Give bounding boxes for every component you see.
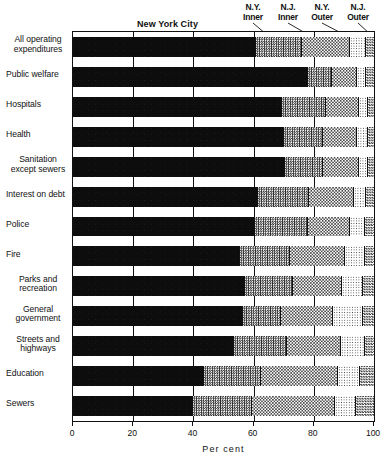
callout-label-nj-outer: N.J. Outer xyxy=(338,3,378,22)
bar-segment xyxy=(363,306,374,326)
bar-row xyxy=(73,336,374,356)
bar-segment xyxy=(73,336,234,356)
category-label: Police xyxy=(6,220,70,230)
bar-segment xyxy=(73,366,204,386)
bar-segment xyxy=(332,67,358,87)
bar-segment xyxy=(73,276,245,296)
bar-segment xyxy=(234,336,287,356)
bar-segment xyxy=(73,396,193,416)
bar-segment xyxy=(73,37,256,57)
category-label: Sanitation except sewers xyxy=(6,155,70,174)
bar-segment xyxy=(360,366,374,386)
bar-row xyxy=(73,37,374,57)
bar-segment xyxy=(293,276,343,296)
category-label: Health xyxy=(6,130,70,140)
x-tick-label: 0 xyxy=(52,428,92,438)
bar-segment xyxy=(357,67,366,87)
bar-segment xyxy=(345,246,365,266)
bar-segment xyxy=(281,306,334,326)
callout-label-ny-outer: N.Y. Outer xyxy=(302,3,342,22)
x-tick-label: 40 xyxy=(172,428,212,438)
x-tick xyxy=(373,422,374,426)
bar-segment xyxy=(308,217,350,237)
bar-row xyxy=(73,217,374,237)
bar-segment xyxy=(359,97,368,117)
bar-row xyxy=(73,246,374,266)
bar-segment xyxy=(73,187,258,207)
bar-segment xyxy=(73,127,284,147)
x-tick xyxy=(253,422,254,426)
x-axis-title: Per cent xyxy=(72,444,375,454)
bar-segment xyxy=(335,396,356,416)
bar-segment xyxy=(243,306,281,326)
bar-segment xyxy=(258,187,309,207)
bar-segment xyxy=(363,276,374,296)
bar-segment xyxy=(326,97,359,117)
x-tick xyxy=(132,422,133,426)
bar-segment xyxy=(357,127,368,147)
plot-area xyxy=(72,31,375,422)
bar-row xyxy=(73,396,374,416)
x-tick xyxy=(313,422,314,426)
category-label: Fire xyxy=(6,250,70,260)
bar-row xyxy=(73,366,374,386)
bar-segment xyxy=(323,157,359,177)
bar-segment xyxy=(287,336,341,356)
category-label: Interest on debt xyxy=(6,190,70,200)
bar-segment xyxy=(366,67,374,87)
callout-label-ny-inner: N.Y. Inner xyxy=(233,3,273,22)
x-tick xyxy=(192,422,193,426)
bar-segment xyxy=(354,187,366,207)
bar-row xyxy=(73,67,374,87)
bar-segment xyxy=(240,246,290,266)
bar-segment xyxy=(365,246,374,266)
bar-segment xyxy=(368,157,374,177)
bar-segment xyxy=(73,306,243,326)
bar-segment xyxy=(252,396,335,416)
bar-segment xyxy=(338,366,361,386)
bar-segment xyxy=(342,276,363,296)
bar-segment xyxy=(341,336,365,356)
bar-segment xyxy=(73,67,308,87)
category-label: General government xyxy=(6,305,70,324)
bar-segment xyxy=(284,127,323,147)
category-label: Public welfare xyxy=(6,70,70,80)
x-tick-label: 20 xyxy=(112,428,152,438)
bar-segment xyxy=(365,336,374,356)
bar-segment xyxy=(323,127,358,147)
bar-row xyxy=(73,306,374,326)
bar-segment xyxy=(350,37,367,57)
bar-segment xyxy=(350,217,365,237)
bar-segment xyxy=(365,217,374,237)
bar-segment xyxy=(285,157,323,177)
chart-root: N.Y. Inner N.J. Inner N.Y. Outer N.J. Ou… xyxy=(0,0,386,461)
bar-segment xyxy=(73,157,285,177)
bar-row xyxy=(73,276,374,296)
bar-segment xyxy=(73,217,255,237)
series-label-new-york-city: New York City xyxy=(137,19,198,29)
bar-segment xyxy=(282,97,326,117)
bar-segment xyxy=(356,396,374,416)
bar-segment xyxy=(204,366,261,386)
bar-segment xyxy=(308,67,332,87)
bar-segment xyxy=(261,366,338,386)
x-tick xyxy=(72,422,73,426)
x-tick-label: 80 xyxy=(293,428,333,438)
bar-segment xyxy=(368,97,374,117)
bar-row xyxy=(73,97,374,117)
bar-row xyxy=(73,187,374,207)
bar-segment xyxy=(245,276,293,296)
bar-segment xyxy=(366,187,374,207)
bar-row xyxy=(73,127,374,147)
category-label: Streets and highways xyxy=(6,335,70,354)
bar-segment xyxy=(193,396,252,416)
bar-segment xyxy=(333,306,363,326)
bar-segment xyxy=(290,246,346,266)
category-label: Hospitals xyxy=(6,100,70,110)
bar-segment xyxy=(368,127,374,147)
bar-segment xyxy=(73,246,240,266)
bar-segment xyxy=(366,37,374,57)
category-label: Education xyxy=(6,369,70,379)
bar-segment xyxy=(309,187,354,207)
bar-segment xyxy=(256,37,302,57)
